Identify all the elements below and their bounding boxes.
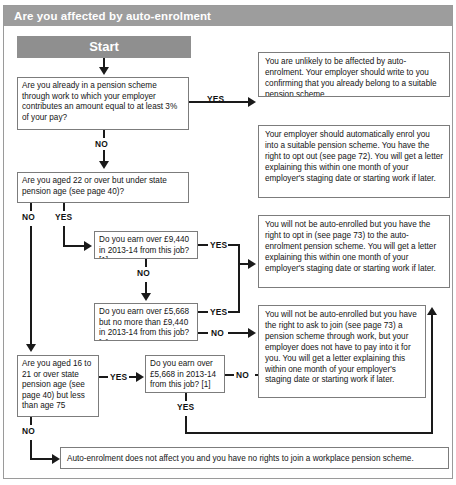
arrow-right-q2-q3 [84, 241, 92, 251]
connector-q1-no-stub [103, 130, 105, 138]
connector-q6-no-stub [225, 374, 234, 376]
question-earn-over-5668: Do you earn over £5,668 in 2013-14 from … [145, 355, 225, 393]
outcome-unlikely-affected: You are unlikely to be affected by auto-… [258, 52, 450, 97]
edge-label-q5-no: NO [22, 426, 35, 436]
connector-q3-yes-stub [198, 244, 208, 246]
start-banner: Start [17, 36, 191, 58]
connector-q3-no-stub [145, 259, 147, 267]
arrow-right-q3-outcome-c [248, 259, 256, 269]
outcome-not-affected: Auto-enrolment does not affect you and y… [60, 447, 449, 469]
arrow-right-q5-outcome-e [52, 454, 60, 464]
connector-q4-no [228, 332, 250, 334]
figure-title: Are you affected by auto-enrolment [4, 6, 452, 26]
arrow-right-q5-q6 [136, 372, 144, 382]
outcome-ask-to-join: You will not be auto-enrolled but you ha… [258, 305, 426, 398]
connector-q6-yes-stub [185, 393, 187, 401]
connector-q2-yes-stub [63, 203, 65, 211]
edge-label-q6-no: NO [236, 370, 249, 380]
question-pension-scheme: Are you already in a pension scheme thro… [17, 77, 189, 130]
arrow-right-q1-yes [248, 97, 256, 107]
arrow-up-q6-outcome-c [427, 307, 437, 315]
connector-q3-yes-down [238, 244, 240, 265]
arrow-down-start-q1 [99, 67, 109, 75]
edge-label-q5-yes: YES [110, 372, 127, 382]
edge-label-q3-yes: YES [210, 240, 227, 250]
edge-label-q1-yes: YES [207, 94, 224, 104]
connector-q4-yes-stub [198, 311, 208, 313]
edge-label-q4-yes: YES [210, 307, 227, 317]
connector-q2-no [30, 226, 32, 346]
connector-q5-no-stub [30, 417, 32, 425]
connector-q2-yes-across [63, 245, 86, 247]
question-earn-over-9440: Do you earn over £9,440 in 2013-14 from … [94, 231, 198, 259]
connector-q6-yes-across-bottom [185, 432, 433, 434]
connector-q6-yes-up-right [431, 315, 433, 434]
connector-q5-no-down [30, 440, 32, 460]
connector-q4-no-stub [198, 332, 208, 334]
arrow-down-q2-q5 [26, 344, 36, 352]
outcome-opt-in: You will not be auto-enrolled but you ha… [258, 215, 450, 288]
connector-q5-no-across [30, 458, 54, 460]
connector-q5-yes-stub [99, 376, 108, 378]
arrow-right-q4-outcome-d [248, 328, 256, 338]
arrow-down-q1-q2 [99, 161, 109, 169]
question-age-22-spa: Are you aged 22 or over but under state … [17, 172, 189, 203]
question-age-16-21-or-spa-75: Are you aged 16 to 21 or over state pens… [17, 355, 99, 417]
edge-label-q1-no: NO [95, 139, 108, 149]
connector-q2-no-stub [30, 203, 32, 211]
edge-label-q2-yes: YES [55, 212, 72, 222]
question-earn-5668-to-9440: Do you earn over £5,668 but no more than… [94, 303, 198, 341]
connector-q2-yes-down [63, 226, 65, 247]
edge-label-q6-yes: YES [177, 402, 194, 412]
flowchart-page: Are you affected by auto-enrolment Start… [0, 0, 456, 485]
connector-q4-yes-up [238, 265, 240, 313]
edge-label-q4-no: NO [211, 328, 224, 338]
arrow-down-q3-q4 [141, 293, 151, 301]
outcome-auto-enrolled: Your employer should automatically enrol… [258, 125, 450, 198]
edge-label-q2-no: NO [22, 212, 35, 222]
edge-label-q3-no: NO [137, 268, 150, 278]
